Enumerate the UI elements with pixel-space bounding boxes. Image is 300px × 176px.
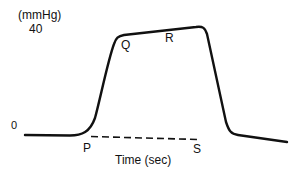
point-label-s: S <box>193 143 201 155</box>
x-axis-label: Time (sec) <box>115 154 171 166</box>
point-label-r: R <box>165 32 174 44</box>
y-axis-unit-label: (mmHg) <box>18 9 61 21</box>
y-axis-tick-40: 40 <box>29 23 42 35</box>
point-label-p: P <box>83 142 91 154</box>
waveform-plot <box>0 0 300 176</box>
pressure-curve <box>25 27 287 142</box>
y-axis-tick-0: 0 <box>11 120 17 131</box>
dashed-baseline-p-to-s <box>91 137 198 140</box>
point-label-q: Q <box>121 39 130 51</box>
